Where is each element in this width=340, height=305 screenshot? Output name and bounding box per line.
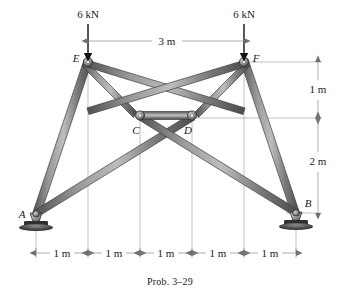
- node-label-E: E: [72, 52, 80, 64]
- truss-members: [32, 59, 300, 218]
- load-label-right: 6 kN: [233, 8, 255, 20]
- member-A-E: [32, 60, 92, 217]
- member-C-D: [138, 112, 194, 120]
- truss-figure: 6 kN 6 kN 3 m 1 m 2 m: [0, 0, 340, 305]
- node-label-F: F: [252, 52, 260, 64]
- member-B-F: [240, 59, 300, 216]
- figure-caption: Prob. 3–29: [147, 276, 193, 287]
- truss-diagram-svg: 6 kN 6 kN 3 m 1 m 2 m: [0, 0, 340, 305]
- dimension-label-bottom-4: 1 m: [210, 247, 227, 259]
- dimension-label-top-span: 3 m: [159, 35, 176, 47]
- dimension-label-bottom-2: 1 m: [106, 247, 123, 259]
- node-label-B: B: [305, 197, 312, 209]
- dimension-label-bottom-3: 1 m: [158, 247, 175, 259]
- dimension-label-bottom-1: 1 m: [54, 247, 71, 259]
- member-A-D: [34, 114, 195, 217]
- load-label-left: 6 kN: [77, 8, 99, 20]
- dimension-label-vertical-1m: 1 m: [310, 83, 327, 95]
- dimension-label-vertical-2m: 2 m: [310, 155, 327, 167]
- node-label-A: A: [18, 208, 26, 220]
- dimension-label-bottom-5: 1 m: [262, 247, 279, 259]
- node-label-D: D: [183, 124, 192, 136]
- node-label-C: C: [132, 124, 140, 136]
- member-B-C: [138, 113, 299, 216]
